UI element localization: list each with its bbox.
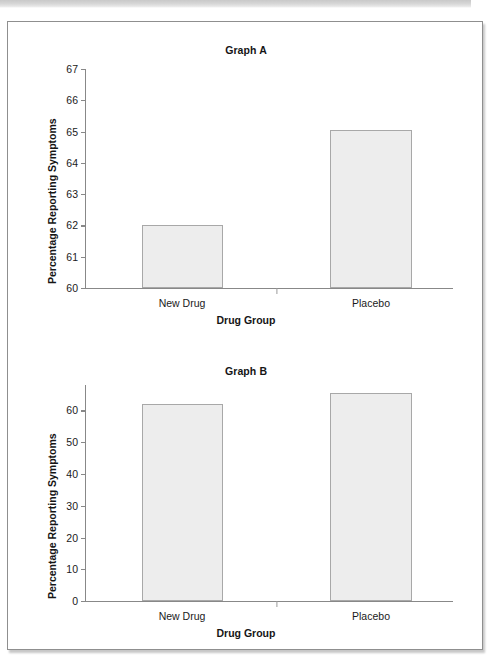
scan-artifact-band — [0, 0, 493, 8]
chart-panel-graph-a: Graph A 60 61 62 63 64 65 66 67 New Drug… — [8, 22, 484, 337]
y-axis-title-graph-b: Percentage Reporting Symptoms — [46, 433, 58, 599]
chart-title-graph-a: Graph A — [8, 44, 484, 56]
figure-frame: Graph A 60 61 62 63 64 65 66 67 New Drug… — [7, 21, 483, 650]
y-tick-label: 60 — [66, 282, 86, 294]
y-tick-label: 10 — [66, 563, 86, 575]
plot-area-graph-b: 0 10 20 30 40 50 60 New Drug Placebo — [85, 385, 453, 602]
y-tick-label: 63 — [66, 188, 86, 200]
y-tick-label: 67 — [66, 63, 86, 75]
x-axis-title-graph-a: Drug Group — [8, 314, 484, 326]
x-axis-category-divider-tick — [276, 288, 277, 294]
y-tick-label: 50 — [66, 436, 86, 448]
scan-artifact-corner — [471, 0, 493, 8]
y-tick-label: 0 — [72, 595, 86, 607]
y-tick-label: 62 — [66, 219, 86, 231]
bar-new-drug — [142, 225, 223, 288]
chart-panel-graph-b: Graph B 0 10 20 30 40 50 60 New Drug Pla… — [8, 337, 484, 651]
y-tick-label: 66 — [66, 94, 86, 106]
bar-new-drug — [142, 404, 223, 601]
x-axis-title-graph-b: Drug Group — [8, 627, 484, 639]
x-tick-label-placebo: Placebo — [352, 297, 390, 309]
y-tick-label: 61 — [66, 251, 86, 263]
x-tick-label-new-drug: New Drug — [159, 297, 206, 309]
x-tick-label-placebo: Placebo — [352, 610, 390, 622]
bar-placebo — [330, 130, 412, 288]
y-tick-label: 20 — [66, 532, 86, 544]
y-tick-label: 64 — [66, 157, 86, 169]
y-axis-title-graph-a: Percentage Reporting Symptoms — [46, 118, 58, 284]
x-tick-label-new-drug: New Drug — [159, 610, 206, 622]
y-tick-label: 40 — [66, 468, 86, 480]
plot-area-graph-a: 60 61 62 63 64 65 66 67 New Drug Placebo — [85, 69, 453, 289]
y-tick-label: 60 — [66, 404, 86, 416]
y-tick-label: 30 — [66, 500, 86, 512]
y-tick-label: 65 — [66, 126, 86, 138]
bar-placebo — [330, 393, 412, 601]
chart-title-graph-b: Graph B — [8, 365, 484, 377]
x-axis-category-divider-tick — [276, 601, 277, 607]
